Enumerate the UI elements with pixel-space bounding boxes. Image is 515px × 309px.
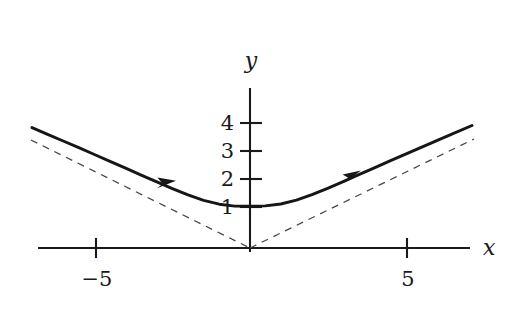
- asymptote-left-dashed: [31, 140, 250, 248]
- hyperbola-curve: [32, 126, 472, 207]
- x-tick-label-minus-5: −5: [82, 269, 113, 290]
- asymptote-right-dashed: [250, 139, 474, 248]
- y-tick-label-3: 3: [221, 141, 234, 162]
- hyperbola-figure: 4 3 2 1 −5 5 x y: [0, 0, 515, 309]
- y-axis-label: y: [245, 50, 257, 72]
- x-tick-label-5: 5: [401, 269, 414, 290]
- plot-canvas: [0, 0, 515, 309]
- y-tick-label-1: 1: [221, 197, 234, 218]
- y-tick-label-4: 4: [221, 113, 234, 134]
- x-axis-label: x: [483, 237, 495, 259]
- y-tick-label-2: 2: [221, 169, 234, 190]
